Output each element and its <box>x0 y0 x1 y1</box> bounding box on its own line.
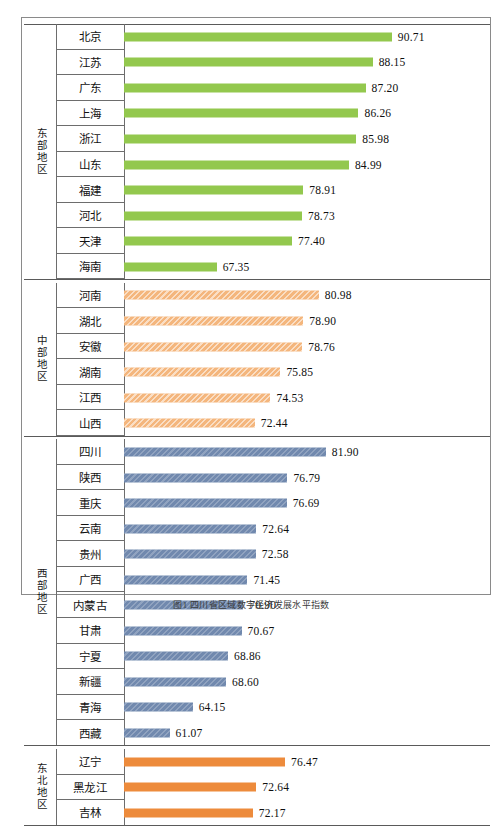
bar-value-label: 72.58 <box>262 548 289 560</box>
bar-track: 90.71 <box>124 24 490 50</box>
category-label-cell: 上海 <box>56 101 124 127</box>
category-label: 吉林 <box>79 804 102 820</box>
category-label: 黑龙江 <box>73 779 108 795</box>
chart-row: 西藏61.07 <box>22 720 490 746</box>
category-label-cell: 湖南 <box>56 359 124 385</box>
category-label: 河南 <box>79 287 102 303</box>
bar-value-label: 78.90 <box>309 315 336 327</box>
bar <box>124 677 226 686</box>
category-label-cell: 云南 <box>56 516 124 542</box>
category-label: 江苏 <box>79 54 102 70</box>
bar-track: 84.99 <box>124 152 490 178</box>
chart-row: 云南72.64 <box>22 516 490 542</box>
chart-row: 福建78.91 <box>22 177 490 203</box>
category-label: 辽宁 <box>79 753 102 769</box>
chart-row: 山西72.44 <box>22 410 490 436</box>
category-label-cell: 山东 <box>56 152 124 178</box>
category-label-cell: 江苏 <box>56 50 124 76</box>
region-separator <box>24 279 490 280</box>
chart-row: 河北78.73 <box>22 203 490 229</box>
category-label-cell: 新疆 <box>56 669 124 695</box>
category-label-cell: 辽宁 <box>56 749 124 775</box>
category-label-cell: 江西 <box>56 385 124 411</box>
bar <box>124 447 326 456</box>
category-label-cell: 宁夏 <box>56 644 124 670</box>
bar <box>124 703 193 712</box>
chart-row: 新疆68.60 <box>22 669 490 695</box>
category-label: 新疆 <box>79 673 102 689</box>
bar-track: 72.64 <box>124 775 490 801</box>
bar-track: 67.35 <box>124 254 490 280</box>
chart-row: 吉林72.17 <box>22 800 490 826</box>
chart-row: 陕西76.79 <box>22 465 490 491</box>
chart-row: 天津77.40 <box>22 228 490 254</box>
chart-row: 河南80.98 <box>22 283 490 309</box>
bar-value-label: 72.64 <box>262 523 289 535</box>
bar <box>124 368 280 377</box>
category-label-cell: 吉林 <box>56 800 124 826</box>
bar-track: 80.98 <box>124 283 490 309</box>
bar <box>124 473 287 482</box>
category-label-cell: 山西 <box>56 410 124 436</box>
bar-value-label: 78.91 <box>309 184 336 196</box>
category-label-cell: 河南 <box>56 283 124 309</box>
category-label: 北京 <box>79 28 102 44</box>
category-label: 湖南 <box>79 364 102 380</box>
bar-track: 75.85 <box>124 359 490 385</box>
chart-row: 黑龙江72.64 <box>22 775 490 801</box>
bar <box>124 524 256 533</box>
bar-track: 78.90 <box>124 308 490 334</box>
bar <box>124 32 392 41</box>
bar-value-label: 77.40 <box>298 235 325 247</box>
chart-row: 北京90.71 <box>22 24 490 50</box>
category-label: 江西 <box>79 389 102 405</box>
bar-track: 68.60 <box>124 669 490 695</box>
bar-value-label: 67.35 <box>223 261 250 273</box>
category-label-cell: 黑龙江 <box>56 775 124 801</box>
category-label-cell: 四川 <box>56 439 124 465</box>
category-label: 贵州 <box>79 546 102 562</box>
bar <box>124 160 349 169</box>
bar-track: 77.40 <box>124 228 490 254</box>
bar-value-label: 68.86 <box>234 650 261 662</box>
bar <box>124 186 303 195</box>
bar <box>124 499 287 508</box>
bar-value-label: 72.64 <box>262 781 289 793</box>
category-label-cell: 西藏 <box>56 720 124 746</box>
bar-value-label: 72.44 <box>261 417 288 429</box>
bar-value-label: 76.47 <box>291 756 318 768</box>
category-label-cell: 广东 <box>56 75 124 101</box>
bar <box>124 262 217 271</box>
category-label-cell: 甘肃 <box>56 618 124 644</box>
category-label: 云南 <box>79 520 102 536</box>
bar-value-label: 61.07 <box>176 727 203 739</box>
bar-track: 81.90 <box>124 439 490 465</box>
category-label: 陕西 <box>79 469 102 485</box>
bar-value-label: 87.20 <box>372 82 399 94</box>
category-label: 安徽 <box>79 338 102 354</box>
category-label-cell: 浙江 <box>56 126 124 152</box>
bar-track: 85.98 <box>124 126 490 152</box>
bar-track: 78.73 <box>124 203 490 229</box>
chart-row: 安徽78.76 <box>22 334 490 360</box>
bar-value-label: 78.73 <box>308 210 335 222</box>
bar <box>124 575 247 584</box>
chart-row: 山东84.99 <box>22 152 490 178</box>
bar-value-label: 90.71 <box>398 31 425 43</box>
category-label-cell: 湖北 <box>56 308 124 334</box>
category-label: 河北 <box>79 207 102 223</box>
plot-area: 东部地区北京90.71江苏88.15广东87.20上海86.26浙江85.98山… <box>22 18 490 594</box>
chart-row: 甘肃70.67 <box>22 618 490 644</box>
category-label: 广西 <box>79 571 102 587</box>
category-label-cell: 青海 <box>56 695 124 721</box>
chart-row: 湖南75.85 <box>22 359 490 385</box>
chart-row: 江西74.53 <box>22 385 490 411</box>
bar <box>124 342 302 351</box>
category-label: 上海 <box>79 105 102 121</box>
bar <box>124 626 242 635</box>
bar <box>124 237 292 246</box>
chart-frame: 东部地区北京90.71江苏88.15广东87.20上海86.26浙江85.98山… <box>21 17 491 595</box>
bar-value-label: 74.53 <box>276 392 303 404</box>
category-label: 重庆 <box>79 495 102 511</box>
